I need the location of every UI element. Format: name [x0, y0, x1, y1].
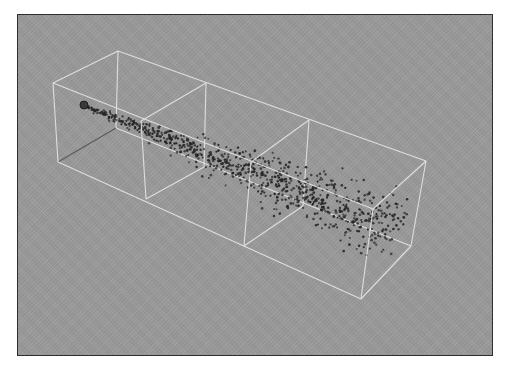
- particle: [299, 193, 301, 195]
- particle: [221, 162, 224, 165]
- particle: [266, 171, 268, 173]
- particle: [260, 187, 262, 189]
- particle: [243, 176, 245, 178]
- particle: [363, 246, 365, 248]
- box-edge: [53, 83, 373, 209]
- particle: [227, 153, 229, 155]
- particle: [108, 120, 110, 122]
- particle: [236, 168, 238, 170]
- particle: [104, 110, 106, 112]
- particle: [371, 228, 373, 230]
- particle: [307, 199, 309, 201]
- particle: [213, 165, 215, 167]
- particle: [369, 247, 371, 249]
- particle: [367, 213, 369, 215]
- particle: [273, 215, 275, 217]
- particle: [326, 184, 329, 187]
- particle: [298, 186, 300, 188]
- particle: [296, 198, 299, 201]
- particle: [124, 123, 126, 125]
- particle: [249, 153, 252, 156]
- particle: [182, 141, 184, 143]
- particle: [256, 172, 258, 174]
- particle: [381, 230, 383, 232]
- particle: [348, 243, 351, 246]
- particle: [273, 208, 275, 210]
- particle: [305, 166, 308, 169]
- particle: [276, 199, 279, 202]
- particle: [381, 212, 384, 215]
- box-edge: [118, 51, 426, 161]
- particle: [318, 202, 321, 205]
- particle-cloud: [86, 105, 408, 256]
- particle: [302, 192, 304, 194]
- particle: [356, 218, 359, 221]
- particle: [321, 227, 323, 229]
- particle: [285, 186, 288, 189]
- particle: [319, 194, 321, 196]
- particle: [375, 244, 377, 246]
- particle: [165, 142, 167, 144]
- particle: [338, 215, 340, 217]
- particle: [159, 140, 161, 142]
- particle: [204, 136, 207, 139]
- particle: [339, 217, 342, 220]
- particle: [242, 151, 244, 153]
- particle: [373, 231, 375, 233]
- particle: [376, 217, 379, 220]
- particle: [298, 190, 300, 192]
- particle: [296, 166, 298, 168]
- particle: [378, 209, 380, 211]
- particle: [310, 174, 312, 176]
- particle: [207, 159, 209, 161]
- particle: [288, 182, 290, 184]
- particle: [239, 158, 241, 160]
- particle: [126, 127, 128, 129]
- particle: [115, 116, 117, 118]
- particle: [240, 182, 242, 184]
- particle: [292, 187, 295, 190]
- particle: [386, 201, 388, 203]
- particle: [227, 162, 229, 164]
- particle: [377, 232, 379, 234]
- particle: [197, 157, 200, 160]
- hidden-edge: [58, 128, 116, 162]
- particle: [277, 157, 279, 159]
- box-edge: [53, 83, 58, 162]
- particle: [202, 133, 204, 135]
- particle: [148, 125, 150, 127]
- particle: [190, 146, 193, 149]
- particle: [194, 144, 196, 146]
- particle: [365, 219, 367, 221]
- particle: [331, 180, 333, 182]
- particle: [320, 177, 322, 179]
- particle: [90, 107, 92, 109]
- box-back-edges: [116, 51, 411, 246]
- particle: [359, 213, 362, 216]
- particle: [202, 156, 204, 158]
- particle: [232, 175, 235, 178]
- particle: [227, 165, 229, 167]
- particle: [260, 193, 262, 195]
- particle: [305, 196, 308, 199]
- particle: [210, 174, 213, 177]
- particle: [324, 224, 326, 226]
- particle: [148, 129, 150, 131]
- particle: [156, 132, 158, 134]
- particle: [283, 167, 286, 170]
- particle: [275, 176, 277, 178]
- particle: [229, 159, 231, 161]
- particle: [380, 210, 383, 213]
- particle: [275, 208, 277, 210]
- particle: [328, 184, 330, 186]
- particle: [238, 152, 241, 155]
- particle: [186, 143, 188, 145]
- particle: [384, 216, 386, 218]
- particle: [131, 124, 133, 126]
- particle: [385, 228, 388, 231]
- particle: [372, 222, 375, 225]
- particle: [213, 169, 215, 171]
- particle: [344, 234, 346, 236]
- particle: [268, 165, 270, 167]
- particle: [252, 174, 254, 176]
